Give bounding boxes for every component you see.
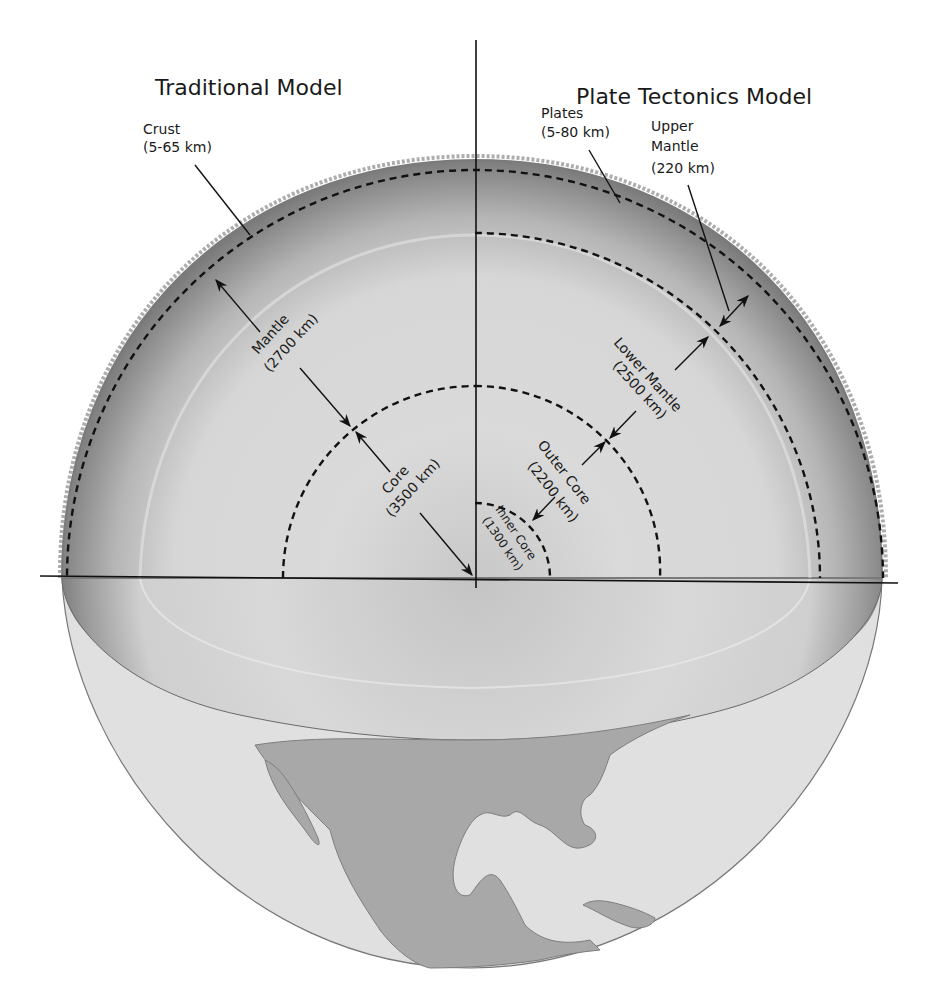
earth-layers-diagram: Traditional Model Plate Tectonics Model … xyxy=(0,0,938,1004)
svg-text:(5-65 km): (5-65 km) xyxy=(143,139,212,155)
svg-text:Mantle: Mantle xyxy=(651,138,699,154)
svg-text:Plates: Plates xyxy=(541,105,583,121)
label-crust: Crust (5-65 km) xyxy=(143,121,250,235)
title-plate-tectonics-model: Plate Tectonics Model xyxy=(576,84,812,109)
svg-text:Crust: Crust xyxy=(143,121,181,137)
svg-text:(5-80 km): (5-80 km) xyxy=(541,124,610,140)
svg-text:(220 km): (220 km) xyxy=(651,160,715,176)
title-traditional-model: Traditional Model xyxy=(154,75,343,100)
globe-surface xyxy=(62,578,882,968)
cross-section-upper xyxy=(60,156,886,578)
svg-text:Upper: Upper xyxy=(651,118,694,134)
